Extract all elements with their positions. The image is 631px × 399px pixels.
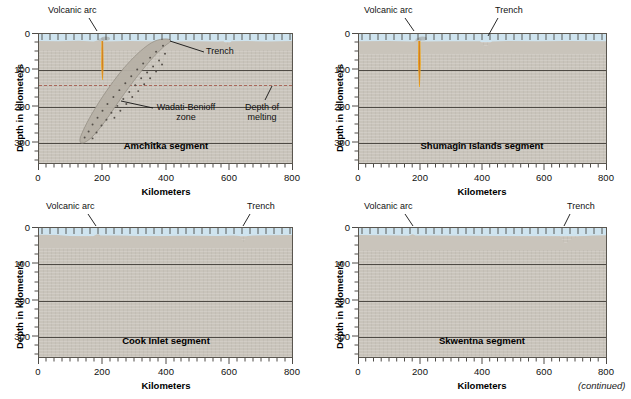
y-tick-label-100: 100	[6, 64, 30, 75]
x-tick-marks	[358, 164, 608, 171]
x-axis-title: Kilometers	[457, 380, 506, 391]
x-tick-label-200: 200	[94, 172, 110, 183]
water-layer	[39, 228, 292, 236]
segment-title-shumagin: Shumagin Islands segment	[421, 140, 544, 151]
y-tick-label-0: 0	[14, 28, 30, 39]
x-tick-label-200: 200	[412, 366, 428, 377]
volcanic-arc-plume	[96, 36, 110, 88]
x-tick-label-600: 600	[221, 172, 237, 183]
y-tick-label-100: 100	[326, 258, 350, 269]
x-tick-marks	[38, 164, 294, 171]
label-volcanic-arc: Volcanic arc	[46, 202, 95, 212]
x-tick-label-800: 800	[598, 366, 614, 377]
y-tick-label-0: 0	[334, 222, 350, 233]
panel-amchitka: Depth in kilometers	[0, 0, 320, 199]
x-tick-marks	[38, 358, 294, 365]
panel-shumagin: Depth in kilometers	[320, 0, 631, 199]
y-tick-label-200: 200	[326, 295, 350, 306]
x-tick-label-400: 400	[474, 172, 490, 183]
y-tick-label-100: 100	[6, 258, 30, 269]
label-trench: Trench	[247, 202, 275, 212]
depth-line-200	[39, 301, 292, 302]
continued-note: (continued)	[578, 380, 626, 391]
depth-line-100	[39, 70, 292, 71]
label-wadati-line1: Wadati-Benioff	[157, 102, 216, 112]
x-tick-marks	[358, 358, 608, 365]
y-tick-label-200: 200	[6, 295, 30, 306]
y-tick-label-100: 100	[326, 64, 350, 75]
y-tick-label-200: 200	[326, 101, 350, 112]
y-tick-label-300: 300	[326, 331, 350, 342]
label-melting-line2: melting	[247, 112, 276, 122]
figure-root: Depth in kilometers	[0, 0, 631, 399]
y-tick-label-300: 300	[6, 137, 30, 148]
label-trench: Trench	[567, 202, 595, 212]
x-tick-label-800: 800	[284, 366, 300, 377]
x-axis-title: Kilometers	[457, 186, 506, 197]
segment-title-cook-inlet: Cook Inlet segment	[122, 335, 210, 346]
x-tick-label-400: 400	[474, 366, 490, 377]
x-tick-label-800: 800	[284, 172, 300, 183]
label-volcanic-arc: Volcanic arc	[48, 6, 97, 16]
x-axis-title: Kilometers	[141, 186, 190, 197]
x-tick-label-200: 200	[94, 366, 110, 377]
x-tick-label-0: 0	[355, 366, 360, 377]
x-tick-label-0: 0	[355, 172, 360, 183]
y-tick-label-300: 300	[326, 137, 350, 148]
depth-of-melting-line	[39, 85, 292, 86]
label-wadati-benioff-zone: Wadati-Benioff zone	[157, 103, 216, 123]
y-tick-label-0: 0	[334, 28, 350, 39]
segment-title-skwentna: Skwentna segment	[439, 335, 525, 346]
y-tick-label-200: 200	[6, 101, 30, 112]
volcanic-arc-plume	[413, 36, 427, 94]
depth-line-200	[359, 107, 606, 108]
x-tick-label-600: 600	[221, 366, 237, 377]
label-trench: Trench	[495, 6, 523, 16]
depth-line-200	[359, 301, 606, 302]
label-melting-line1: Depth of	[245, 102, 279, 112]
x-tick-label-400: 400	[158, 172, 174, 183]
x-tick-label-200: 200	[412, 172, 428, 183]
depth-line-100	[359, 264, 606, 265]
x-tick-label-400: 400	[158, 366, 174, 377]
label-depth-of-melting: Depth of melting	[245, 103, 279, 123]
x-tick-label-600: 600	[536, 172, 552, 183]
water-layer	[359, 34, 606, 42]
label-volcanic-arc: Volcanic arc	[364, 6, 413, 16]
label-wadati-line2: zone	[176, 112, 196, 122]
panel-skwentna: Depth in kilometers	[320, 199, 631, 399]
x-tick-label-800: 800	[598, 172, 614, 183]
y-tick-label-0: 0	[14, 222, 30, 233]
panel-cook-inlet: Depth in kilometers	[0, 199, 320, 399]
water-layer	[359, 228, 606, 236]
label-trench: Trench	[206, 47, 234, 57]
x-tick-label-0: 0	[35, 366, 40, 377]
x-axis-title: Kilometers	[141, 380, 190, 391]
water-layer	[39, 34, 292, 42]
segment-title-amchitka: Amchitka segment	[124, 140, 208, 151]
y-tick-label-300: 300	[6, 331, 30, 342]
x-tick-label-0: 0	[35, 172, 40, 183]
label-volcanic-arc: Volcanic arc	[364, 202, 413, 212]
depth-line-100	[359, 70, 606, 71]
depth-line-100	[39, 264, 292, 265]
x-tick-label-600: 600	[536, 366, 552, 377]
